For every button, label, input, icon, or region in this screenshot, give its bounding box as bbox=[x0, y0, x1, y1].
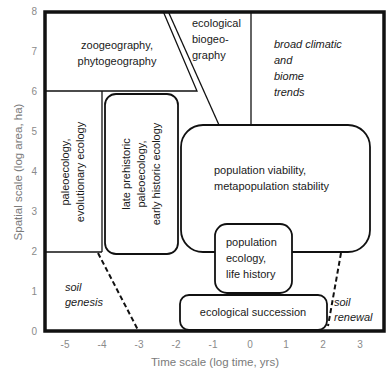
paleoecology-text-2: evolutionary ecology bbox=[74, 121, 86, 222]
viability-text-1: population viability, bbox=[214, 164, 306, 176]
soil-genesis-dashed-line bbox=[98, 253, 138, 330]
x-axis-label: Time scale (log time, yrs) bbox=[151, 356, 279, 368]
soil-renewal-label: soil renewal bbox=[334, 296, 373, 323]
y-tick-1: 1 bbox=[31, 286, 37, 297]
y-tick-3: 3 bbox=[31, 206, 37, 217]
soil-genesis-text-2: genesis bbox=[65, 296, 103, 308]
late-prehistoric-text-1: late prehistoric bbox=[120, 138, 132, 210]
climatic-text-1: broad climatic bbox=[274, 38, 342, 50]
soil-genesis-text-1: soil bbox=[65, 281, 82, 293]
succession-text: ecological succession bbox=[200, 306, 306, 318]
biogeography-text-2: biogeo- bbox=[192, 33, 229, 45]
y-tick-4: 4 bbox=[31, 166, 37, 177]
late-prehistoric-text-3: early historic ecology bbox=[150, 122, 162, 225]
paleoecology-text-1: paleoecology, bbox=[59, 138, 71, 205]
x-tick-neg4: -4 bbox=[98, 339, 107, 350]
x-tick-neg2: -2 bbox=[172, 339, 181, 350]
x-tick-neg5: -5 bbox=[61, 339, 70, 350]
pop-ecology-text-2: ecology, bbox=[226, 252, 266, 264]
soil-renewal-text-2: renewal bbox=[334, 311, 373, 323]
climatic-text-3: biome bbox=[274, 70, 304, 82]
x-tick-2: 2 bbox=[320, 339, 326, 350]
climatic-text-4: trends bbox=[274, 86, 305, 98]
x-tick-neg1: -1 bbox=[209, 339, 218, 350]
y-axis-label: Spatial scale (log area, ha) bbox=[12, 103, 24, 240]
ecological-biogeography-label: ecological biogeo- graphy bbox=[192, 17, 241, 61]
biogeography-text-1: ecological bbox=[192, 17, 241, 29]
pop-ecology-text-1: population bbox=[226, 236, 277, 248]
y-tick-6: 6 bbox=[31, 86, 37, 97]
biogeography-text-3: graphy bbox=[192, 49, 226, 61]
y-tick-7: 7 bbox=[31, 46, 37, 57]
y-tick-8: 8 bbox=[31, 6, 37, 17]
viability-text-2: metapopulation stability bbox=[214, 180, 329, 192]
rounded-boxes bbox=[105, 94, 370, 330]
x-tick-0: 0 bbox=[247, 339, 253, 350]
zoogeography-text-2: phytogeography bbox=[78, 55, 157, 67]
ecological-succession-label: ecological succession bbox=[200, 306, 306, 318]
broad-climatic-label: broad climatic and biome trends bbox=[274, 38, 342, 98]
x-tick-3: 3 bbox=[357, 339, 363, 350]
y-tick-5: 5 bbox=[31, 126, 37, 137]
y-tick-2: 2 bbox=[31, 246, 37, 257]
x-axis-ticks: -5 -4 -3 -2 -1 0 1 2 3 bbox=[61, 339, 364, 350]
x-tick-neg3: -3 bbox=[135, 339, 144, 350]
x-tick-1: 1 bbox=[283, 339, 289, 350]
y-axis-ticks: 0 1 2 3 4 5 6 7 8 bbox=[31, 6, 37, 337]
pop-ecology-text-3: life history bbox=[226, 268, 276, 280]
paleoecology-label: paleoecology, evolutionary ecology bbox=[59, 121, 86, 222]
y-tick-0: 0 bbox=[31, 326, 37, 337]
climatic-text-2: and bbox=[274, 54, 293, 66]
zoogeography-label: zoogeography, phytogeography bbox=[78, 39, 157, 67]
late-prehistoric-text-2: paleoecology, bbox=[135, 140, 147, 207]
zoogeography-text-1: zoogeography, bbox=[81, 39, 153, 51]
ecology-scale-diagram: 0 1 2 3 4 5 6 7 8 Spatial scale (log are… bbox=[0, 0, 391, 375]
soil-genesis-label: soil genesis bbox=[65, 281, 103, 308]
soil-renewal-text-1: soil bbox=[334, 296, 351, 308]
